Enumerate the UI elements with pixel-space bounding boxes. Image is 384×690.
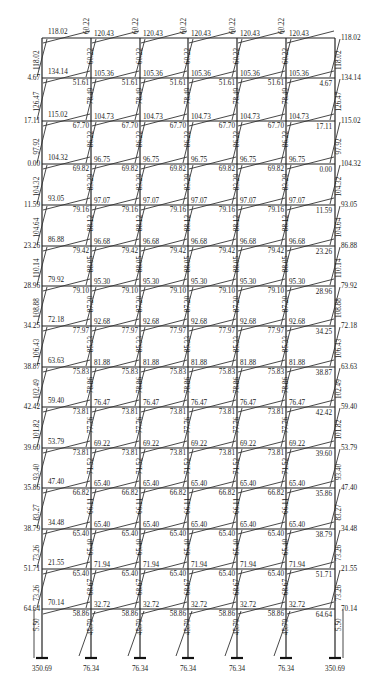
- column-top-moment: 65.40: [87, 539, 95, 556]
- edge-node-moment-left: 17.11: [24, 117, 40, 125]
- base-moment-label: 76.34: [132, 665, 149, 673]
- beam-far-moment: 65.40: [268, 530, 285, 538]
- beam-end-moment: 69.22: [143, 440, 160, 448]
- beam-far-moment: 69.82: [73, 165, 90, 173]
- beam-far-moment: 79.42: [219, 247, 236, 255]
- column-top-moment: 71.52: [282, 458, 290, 475]
- beam-far-moment: 73.81: [170, 408, 187, 416]
- beam-far-moment: 73.81: [122, 408, 139, 416]
- beam-far-moment: 51.61: [219, 79, 236, 87]
- beam-far-moment: 65.40: [122, 530, 139, 538]
- column-top-moment: 77.76: [136, 417, 144, 434]
- column-top-moment: 83.29: [233, 174, 241, 191]
- edge-beam-moment-left: 93.05: [48, 195, 65, 203]
- beam-end-moment: 76.47: [240, 399, 257, 407]
- edge-node-moment-right: 23.26: [316, 248, 333, 256]
- edge-node-moment-left: 42.42: [24, 403, 41, 411]
- beam-end-moment: 69.22: [289, 440, 306, 448]
- column-top-moment: 71.52: [136, 458, 144, 475]
- beam-far-moment: 65.40: [219, 530, 236, 538]
- edge-column-moment-right: 104.32: [335, 176, 343, 196]
- beam-far-moment: 69.82: [122, 165, 139, 173]
- edge-column-moment-left: 93.40: [33, 463, 41, 480]
- beam-end-moment: 104.73: [289, 113, 309, 121]
- beam-end-moment: 76.47: [143, 399, 160, 407]
- edge-column-moment-left: 101.82: [33, 419, 41, 439]
- beam-end-moment: 120.43: [240, 30, 260, 38]
- column-bot-moment: 60.22: [229, 17, 237, 34]
- beam-end-moment: 120.43: [289, 30, 309, 38]
- base-moment-label: 76.34: [83, 665, 100, 673]
- beam-far-moment: 79.10: [219, 287, 236, 295]
- edge-beam-moment-left: 53.79: [48, 438, 65, 446]
- beam-end-moment: 95.30: [240, 278, 257, 286]
- beam-end-moment: 105.36: [289, 70, 309, 78]
- edge-column-moment-left: 108.88: [33, 298, 41, 318]
- beam-end-moment: 32.72: [94, 601, 111, 609]
- beam-end-moment: 120.43: [191, 30, 211, 38]
- beam-far-moment: 65.40: [268, 570, 285, 578]
- base-moment-label: 76.34: [278, 665, 295, 673]
- column-top-moment: 85.33: [87, 336, 95, 353]
- edge-beam-moment-left: 86.88: [48, 236, 65, 244]
- column-top-moment: 66.11: [184, 498, 192, 514]
- beam-end-moment: 81.88: [240, 359, 257, 367]
- edge-column-moment-right: 73.26: [335, 584, 343, 601]
- beam-end-moment: 97.07: [289, 197, 306, 205]
- column-top-moment: 86.22: [87, 131, 95, 148]
- beam-end-moment: 97.07: [143, 197, 160, 205]
- base-moment-label: 350.69: [325, 665, 345, 673]
- edge-beam-moment-right: 72.18: [341, 322, 358, 330]
- edge-column-moment-right: 110.14: [335, 258, 343, 278]
- beam-far-moment: 58.86: [170, 610, 187, 618]
- column-top-moment: 78.49: [87, 88, 95, 105]
- beam-end-moment: 81.88: [191, 359, 208, 367]
- beam-far-moment: 75.83: [122, 368, 139, 376]
- beam-far-moment: 51.61: [122, 79, 139, 87]
- column-top-moment: 60.22: [136, 48, 144, 65]
- edge-node-moment-left: 28.96: [24, 282, 41, 290]
- beam-end-moment: 81.88: [94, 359, 111, 367]
- column-top-moment: 45.79: [282, 619, 290, 636]
- column-top-moment: 85.33: [282, 336, 290, 353]
- beam-far-moment: 66.82: [122, 489, 139, 497]
- column-top-moment: 88.05: [87, 256, 95, 273]
- column-top-moment: 65.40: [184, 539, 192, 556]
- edge-column-moment-right: 108.88: [335, 298, 343, 318]
- edge-column-moment-right: 118.02: [335, 50, 343, 70]
- edge-node-moment-left: 38.87: [24, 363, 41, 371]
- beam-far-moment: 73.81: [268, 408, 285, 416]
- beam-far-moment: 77.97: [73, 327, 90, 335]
- beam-end-moment: 65.40: [240, 521, 257, 529]
- column-top-moment: 83.29: [184, 174, 192, 191]
- beam-far-moment: 67.70: [170, 122, 187, 130]
- beam-far-moment: 79.42: [268, 247, 285, 255]
- edge-beam-moment-right: 118.02: [341, 34, 361, 42]
- beam-end-moment: 76.47: [289, 399, 306, 407]
- column-top-moment: 45.79: [136, 619, 144, 636]
- beam-far-moment: 51.61: [268, 79, 285, 87]
- column-top-moment: 78.86: [136, 377, 144, 394]
- edge-column-moment-right: 93.40: [335, 463, 343, 480]
- column-top-moment: 88.12: [87, 215, 95, 232]
- edge-node-moment-right: 28.96: [316, 288, 333, 296]
- column-bot-moment: 60.22: [132, 17, 140, 34]
- column-top-moment: 77.76: [184, 417, 192, 434]
- beam-far-moment: 77.97: [170, 327, 187, 335]
- edge-node-moment-right: 17.11: [316, 123, 332, 131]
- edge-column-moment-left: 118.02: [33, 50, 41, 70]
- beam-end-moment: 65.40: [94, 521, 111, 529]
- beam-end-moment: 95.30: [143, 278, 160, 286]
- column-top-moment: 66.11: [282, 498, 290, 514]
- column-top-moment: 78.86: [282, 377, 290, 394]
- column-top-moment: 68.67: [87, 579, 95, 596]
- edge-column-moment-left: 97.92: [33, 138, 41, 155]
- beam-far-moment: 58.86: [268, 610, 285, 618]
- edge-beam-moment-left: 104.32: [48, 154, 68, 162]
- beam-end-moment: 32.72: [143, 601, 160, 609]
- edge-beam-moment-left: 134.14: [48, 68, 68, 76]
- beam-far-moment: 66.82: [219, 489, 236, 497]
- edge-node-moment-right: 11.59: [316, 207, 332, 215]
- edge-column-moment-right: 101.82: [335, 419, 343, 439]
- beam-end-moment: 105.36: [240, 70, 260, 78]
